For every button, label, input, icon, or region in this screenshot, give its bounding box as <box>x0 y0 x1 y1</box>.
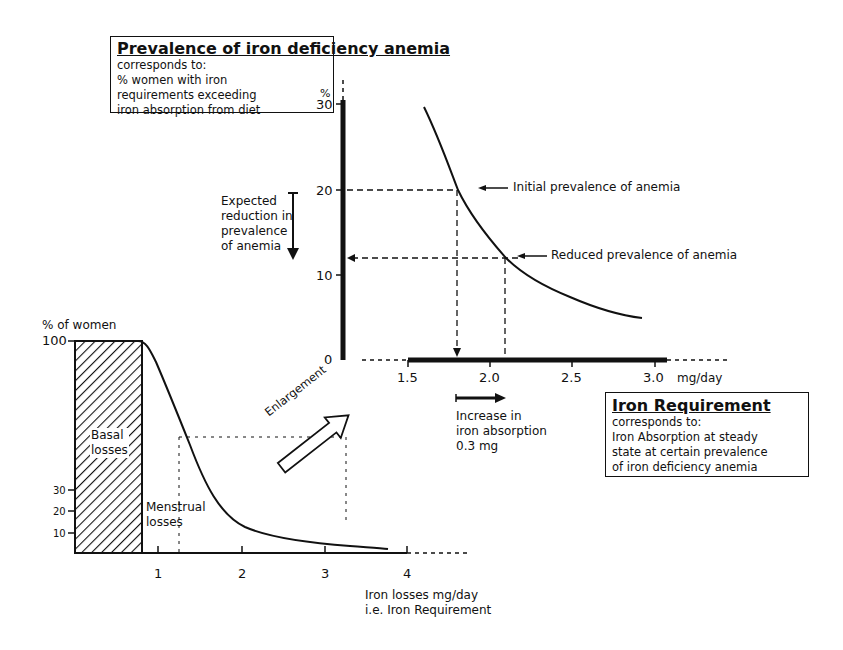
top-y-tick-0: 0 <box>324 352 332 367</box>
box-line: iron absorption from diet <box>117 103 327 118</box>
box-line: requirements exceeding <box>117 88 327 103</box>
bottom-x-tick-3: 3 <box>321 566 329 581</box>
bottom-x-label: Iron losses mg/day i.e. Iron Requirement <box>365 588 477 618</box>
top-x-unit: mg/day <box>677 371 722 386</box>
initial-prevalence-label: Initial prevalence of anemia <box>513 180 680 195</box>
bottom-x-tick-1: 1 <box>154 566 162 581</box>
box-line: Iron Absorption at steady <box>612 430 802 445</box>
bottom-y-tick-20: 20 <box>53 504 66 519</box>
bottom-x-tick-4: 4 <box>403 566 411 581</box>
top-y-tick-30: 30 <box>316 97 333 112</box>
bottom-y-tick-30: 30 <box>53 483 66 498</box>
iron-requirement-title: Iron Requirement <box>612 396 802 415</box>
menstrual-line: losses <box>146 515 206 530</box>
bottom-x-tick-2: 2 <box>238 566 246 581</box>
x-label-line: i.e. Iron Requirement <box>365 603 477 618</box>
expected-reduction-label: Expected reduction in prevalence of anem… <box>221 194 293 254</box>
basal-line: losses <box>91 443 128 458</box>
reduction-line: prevalence <box>221 224 293 239</box>
box-line: corresponds to: <box>612 415 802 430</box>
basal-losses-label: Basal losses <box>90 428 129 458</box>
top-x-tick-2.0: 2.0 <box>479 370 500 385</box>
bottom-y-label: % of women <box>42 318 116 333</box>
basal-line: Basal <box>91 428 128 443</box>
prevalence-title: Prevalence of iron deficiency anemia <box>117 39 327 58</box>
increase-line: 0.3 mg <box>456 439 547 454</box>
iron-requirement-box: Iron Requirement corresponds to: Iron Ab… <box>605 392 809 477</box>
increase-line: iron absorption <box>456 424 547 439</box>
increase-absorption-label: Increase in iron absorption 0.3 mg <box>456 409 547 454</box>
reduction-line: of anemia <box>221 239 293 254</box>
top-x-tick-3.0: 3.0 <box>643 370 664 385</box>
reduction-line: Expected <box>221 194 293 209</box>
bottom-y-tick-10: 10 <box>53 526 66 541</box>
enlargement-arrow <box>274 405 357 478</box>
reduced-prevalence-label: Reduced prevalence of anemia <box>551 248 737 263</box>
menstrual-line: Menstrual <box>146 500 206 515</box>
increase-line: Increase in <box>456 409 547 424</box>
box-line: state at certain prevalence <box>612 445 802 460</box>
top-x-tick-1.5: 1.5 <box>397 370 418 385</box>
top-x-tick-2.5: 2.5 <box>561 370 582 385</box>
bottom-y-tick-100: 100 <box>42 333 67 348</box>
top-y-tick-10: 10 <box>316 268 333 283</box>
reduction-line: reduction in <box>221 209 293 224</box>
top-y-tick-20: 20 <box>316 183 333 198</box>
box-line: % women with iron <box>117 73 327 88</box>
box-line: corresponds to: <box>117 58 327 73</box>
menstrual-losses-label: Menstrual losses <box>146 500 206 530</box>
box-line: of iron deficiency anemia <box>612 460 802 475</box>
x-label-line: Iron losses mg/day <box>365 588 477 603</box>
prevalence-definition-box: Prevalence of iron deficiency anemia cor… <box>110 36 334 113</box>
